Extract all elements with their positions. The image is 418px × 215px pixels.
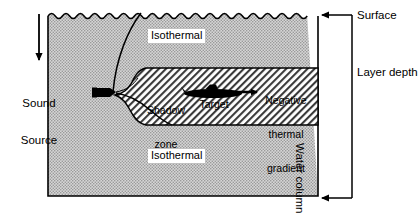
shadow-zone-label: Shadow zone [138,82,194,173]
shadow-zone-label-line2: zone [138,139,194,150]
sound-source-label: Sound Source [4,72,74,171]
sound-source-label-line1: Sound [4,97,74,109]
isothermal-upper-label: Isothermal [148,29,205,43]
sound-source-label-line2: Source [4,134,74,146]
negative-gradient-label-line2: thermal [256,129,316,140]
right-bracket [322,15,352,198]
target-label: Target [190,99,238,110]
shadow-zone-label-line1: Shadow [138,105,194,116]
negative-gradient-label: Negative thermal gradient [256,72,316,197]
water-column-label: Water column [294,143,306,214]
surface-label: Surface [357,9,397,21]
negative-gradient-label-line3: gradient [256,163,316,174]
negative-gradient-label-line1: Negative [256,95,316,106]
layer-depth-label: Layer depth [357,66,418,78]
